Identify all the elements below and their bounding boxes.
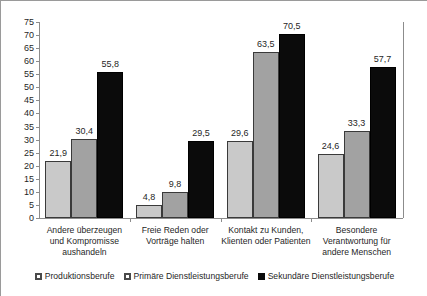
bar-group: 29,663,570,5 <box>221 22 312 218</box>
x-axis-category-label: Andere überzeugenund Kompromisseaushande… <box>39 225 130 258</box>
bar[interactable] <box>318 154 344 218</box>
x-axis-category-label-line: andere Menschen <box>311 247 402 258</box>
chart-legend: ProduktionsberufePrimäre Dienstleistungs… <box>1 271 427 281</box>
bar-chart-figure: 757065605550454035302520151050 Produktio… <box>0 0 427 296</box>
bar-value-label: 70,5 <box>283 22 301 31</box>
x-axis-category-label: BesondereVerantwortung fürandere Mensche… <box>311 225 402 258</box>
legend-item-label: Sekundäre Dienstleistungsberufe <box>268 271 395 281</box>
x-axis-category-label: Freie Reden oderVorträge halten <box>130 225 221 247</box>
x-axis-category-label-line: Verantwortung für <box>311 236 402 247</box>
bar-group: 21,930,455,8 <box>39 22 130 218</box>
legend-item-label: Primäre Dienstleistungsberufe <box>134 271 249 281</box>
bar[interactable] <box>188 141 214 218</box>
x-axis-tick-mark <box>311 218 312 222</box>
x-axis-category-label: Kontakt zu Kunden,Klienten oder Patiente… <box>221 225 312 247</box>
y-axis-tick-label: 20 <box>24 161 34 170</box>
legend-item-label: Produktionsberufe <box>45 271 115 281</box>
bar-container: 21,9 <box>45 22 71 218</box>
bar-value-label: 63,5 <box>257 40 275 49</box>
bar-container: 29,6 <box>227 22 253 218</box>
bar-container: 33,3 <box>344 22 370 218</box>
legend-swatch-icon <box>258 273 265 280</box>
bar-container: 70,5 <box>279 22 305 218</box>
bar-value-label: 29,5 <box>192 129 210 138</box>
bar[interactable] <box>279 34 305 218</box>
x-axis-category-label-line: Klienten oder Patienten <box>221 236 312 247</box>
bar-container: 4,8 <box>136 22 162 218</box>
bar-value-label: 9,8 <box>169 180 182 189</box>
y-axis-tick-label: 35 <box>24 122 34 131</box>
bar-value-label: 29,6 <box>231 129 249 138</box>
bar-container: 63,5 <box>253 22 279 218</box>
bar-container: 30,4 <box>71 22 97 218</box>
y-axis: 757065605550454035302520151050 <box>1 22 39 218</box>
bar-container: 9,8 <box>162 22 188 218</box>
bar-group-bars: 21,930,455,8 <box>39 22 130 218</box>
bar-value-label: 57,7 <box>374 55 392 64</box>
legend-swatch-icon <box>35 273 42 280</box>
y-axis-tick-label: 60 <box>24 57 34 66</box>
bar-value-label: 4,8 <box>143 193 156 202</box>
bar-container: 29,5 <box>188 22 214 218</box>
x-axis-category-label-line: Besondere <box>311 225 402 236</box>
y-axis-tick-label: 65 <box>24 44 34 53</box>
bar[interactable] <box>136 205 162 218</box>
x-axis-category-label-line: aushandeln <box>39 247 130 258</box>
bar-value-label: 55,8 <box>102 60 120 69</box>
x-axis-category-label-line: Kontakt zu Kunden, <box>221 225 312 236</box>
bar[interactable] <box>253 52 279 218</box>
bar-group: 4,89,829,5 <box>130 22 221 218</box>
legend-item[interactable]: Primäre Dienstleistungsberufe <box>124 271 249 281</box>
x-axis-category-label-line: Vorträge halten <box>130 236 221 247</box>
bar-container: 55,8 <box>97 22 123 218</box>
y-axis-tick-label: 40 <box>24 109 34 118</box>
legend-item[interactable]: Produktionsberufe <box>35 271 115 281</box>
x-axis-category-label-line: Andere überzeugen <box>39 225 130 236</box>
bar[interactable] <box>162 192 188 218</box>
x-axis-tick-mark <box>221 218 222 222</box>
y-axis-tick-label: 50 <box>24 83 34 92</box>
y-axis-tick-label: 55 <box>24 70 34 79</box>
y-axis-tick-label: 25 <box>24 148 34 157</box>
y-axis-tick-label: 10 <box>24 187 34 196</box>
bar[interactable] <box>71 139 97 218</box>
y-axis-tick-label: 75 <box>24 18 34 27</box>
y-axis-tick-label: 5 <box>29 200 34 209</box>
bar-container: 24,6 <box>318 22 344 218</box>
bar-value-label: 30,4 <box>76 127 94 136</box>
bar-group: 24,633,357,7 <box>311 22 402 218</box>
bar-container: 57,7 <box>370 22 396 218</box>
y-axis-tick-label: 15 <box>24 174 34 183</box>
x-axis-category-label-line: und Kompromisse <box>39 236 130 247</box>
y-axis-tick-label: 30 <box>24 135 34 144</box>
x-axis-tick-mark <box>130 218 131 222</box>
bar-group-bars: 24,633,357,7 <box>311 22 402 218</box>
y-axis-tick-label: 45 <box>24 96 34 105</box>
bar-value-label: 33,3 <box>348 119 366 128</box>
bar[interactable] <box>45 161 71 218</box>
bar-group-bars: 4,89,829,5 <box>130 22 221 218</box>
bar[interactable] <box>344 131 370 218</box>
x-axis-category-label-line: Freie Reden oder <box>130 225 221 236</box>
bar[interactable] <box>97 72 123 218</box>
bar-value-label: 24,6 <box>322 142 340 151</box>
bar[interactable] <box>370 67 396 218</box>
legend-swatch-icon <box>124 273 131 280</box>
y-axis-tick-label: 0 <box>29 214 34 223</box>
bar[interactable] <box>227 141 253 218</box>
bar-value-label: 21,9 <box>50 149 68 158</box>
bar-group-bars: 29,663,570,5 <box>221 22 312 218</box>
legend-item[interactable]: Sekundäre Dienstleistungsberufe <box>258 271 395 281</box>
y-axis-tick-label: 70 <box>24 31 34 40</box>
